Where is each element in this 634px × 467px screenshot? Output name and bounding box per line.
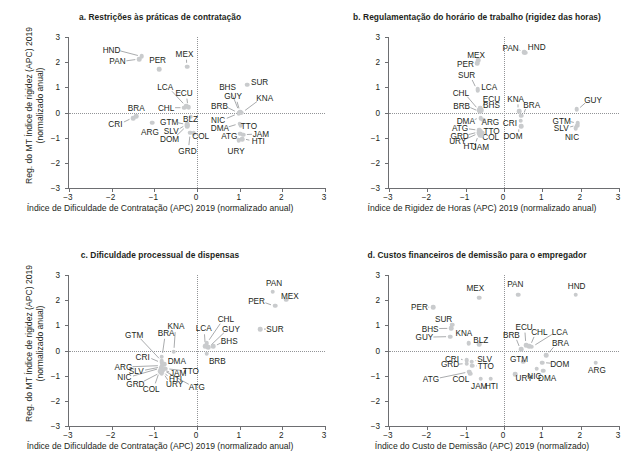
x-tick-d-5 xyxy=(581,426,582,430)
figure-root: a. Restrições às práticas de contratação… xyxy=(0,0,634,467)
country-label-d-TTO: TTO xyxy=(478,362,494,371)
country-label-d-GUY: GUY xyxy=(416,333,434,342)
country-label-d-HTI: HTI xyxy=(485,381,498,390)
panel-d: d. Custos financeiros de demissão para o… xyxy=(0,0,634,467)
country-label-d-ATG: ATG xyxy=(423,374,439,383)
y-tick-label-d-0: −3 xyxy=(362,422,380,431)
country-label-d-BRB: BRB xyxy=(503,330,520,339)
data-point-d-BRB xyxy=(519,347,524,352)
x-tick-d-3 xyxy=(504,426,505,430)
country-label-d-MEX: MEX xyxy=(467,284,485,293)
y-tick-label-d-1: −2 xyxy=(362,396,380,405)
y-tick-d-3 xyxy=(385,351,389,352)
country-label-d-GTM: GTM xyxy=(510,354,528,363)
x-tick-label-d-5: 2 xyxy=(571,431,589,440)
country-label-d-LCA: LCA xyxy=(552,327,568,336)
country-label-d-DMA: DMA xyxy=(538,373,556,382)
data-point-d-TTO xyxy=(470,363,475,368)
data-point-d-MEX xyxy=(477,295,482,300)
zero-line-horizontal-d xyxy=(389,351,619,352)
data-point-d-DOM xyxy=(540,360,545,365)
x-tick-d-2 xyxy=(466,426,467,430)
data-point-d-PAN xyxy=(516,292,521,297)
x-tick-label-d-4: 1 xyxy=(532,431,550,440)
x-tick-d-4 xyxy=(542,426,543,430)
country-label-d-DOM: DOM xyxy=(550,359,569,368)
y-tick-label-d-2: −1 xyxy=(362,371,380,380)
country-label-d-PER: PER xyxy=(411,303,428,312)
country-label-d-BLZ: BLZ xyxy=(473,336,488,345)
country-label-d-KNA: KNA xyxy=(455,329,472,338)
panel-title-d: d. Custos financeiros de demissão para o… xyxy=(320,250,634,260)
x-tick-d-1 xyxy=(427,426,428,430)
y-tick-d-2 xyxy=(385,376,389,377)
x-axis-title-d: Índice do Custo de Demissão (APC) 2019 (… xyxy=(330,441,634,451)
country-label-d-COL: COL xyxy=(452,374,469,383)
y-tick-label-d-4: 1 xyxy=(362,321,380,330)
data-point-d-GRD xyxy=(464,361,469,366)
data-point-d-NIC xyxy=(534,366,539,371)
country-label-d-BRA: BRA xyxy=(552,339,569,348)
data-point-d-LCA xyxy=(529,344,534,349)
country-label-d-ARG: ARG xyxy=(588,366,606,375)
data-point-d-BRA xyxy=(544,353,549,358)
country-label-d-CHL: CHL xyxy=(531,328,547,337)
x-tick-d-6 xyxy=(619,426,620,430)
data-point-d-GUY xyxy=(448,334,453,339)
y-tick-label-d-3: 0 xyxy=(362,346,380,355)
country-label-d-URY: URY xyxy=(516,373,533,382)
y-tick-d-5 xyxy=(385,300,389,301)
x-tick-d-0 xyxy=(389,426,390,430)
x-tick-label-d-3: 0 xyxy=(494,431,512,440)
y-tick-label-d-5: 2 xyxy=(362,296,380,305)
plot-area-d xyxy=(388,275,619,427)
country-label-d-PAN: PAN xyxy=(507,279,523,288)
country-label-d-SUR: SUR xyxy=(435,315,452,324)
x-tick-label-d-1: −2 xyxy=(417,431,435,440)
x-tick-label-d-6: 3 xyxy=(609,431,627,440)
x-tick-label-d-2: −1 xyxy=(456,431,474,440)
y-tick-d-1 xyxy=(385,401,389,402)
data-point-d-BHS xyxy=(449,326,454,331)
country-label-d-GRD: GRD xyxy=(441,360,459,369)
data-point-d-PER xyxy=(431,305,436,310)
country-label-d-HND: HND xyxy=(568,281,586,290)
data-point-d-ATG xyxy=(467,370,472,375)
data-point-d-KNA xyxy=(466,341,471,346)
data-point-d-HND xyxy=(574,292,579,297)
y-tick-label-d-6: 3 xyxy=(362,271,380,280)
data-point-d-JAM xyxy=(478,376,483,381)
y-tick-d-4 xyxy=(385,325,389,326)
x-tick-label-d-0: −3 xyxy=(379,431,397,440)
y-tick-d-6 xyxy=(385,275,389,276)
data-point-d-ARG xyxy=(593,360,598,365)
